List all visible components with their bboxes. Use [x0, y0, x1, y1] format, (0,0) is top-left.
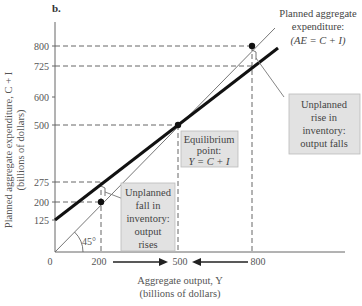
svg-text:Y = C + I: Y = C + I [188, 156, 230, 167]
svg-text:Equilibrium: Equilibrium [184, 134, 235, 145]
svg-text:inventory:: inventory: [302, 125, 345, 136]
svg-text:Unplanned: Unplanned [125, 187, 172, 198]
svg-text:Aggregate output, Y: Aggregate output, Y [137, 275, 223, 286]
svg-text:Unplanned: Unplanned [301, 99, 348, 110]
svg-text:(billions of dollars): (billions of dollars) [139, 288, 221, 300]
svg-text:fall in: fall in [136, 200, 162, 211]
svg-text:(AE = C + I): (AE = C + I) [291, 35, 346, 47]
svg-text:point:: point: [197, 145, 222, 156]
point-800 [249, 43, 255, 49]
svg-text:rise in: rise in [311, 112, 338, 123]
svg-text:500: 500 [173, 256, 188, 267]
y-ticks: 800 725 600 500 275 200 125 [34, 41, 55, 226]
svg-text:(billions of dollars): (billions of dollars) [15, 109, 27, 191]
svg-text:inventory:: inventory: [126, 213, 169, 224]
svg-text:Planned aggregate: Planned aggregate [279, 8, 357, 19]
equilibrium-point [175, 122, 181, 128]
unplanned-fall-box: Unplanned fall in inventory: output rise… [121, 183, 175, 251]
svg-text:275: 275 [34, 177, 49, 188]
svg-text:rises: rises [138, 239, 157, 250]
svg-text:output: output [135, 226, 162, 237]
svg-text:200: 200 [34, 197, 49, 208]
svg-text:Planned aggregate expenditure,: Planned aggregate expenditure, C + I [3, 71, 14, 228]
svg-text:500: 500 [34, 120, 49, 131]
svg-text:600: 600 [34, 92, 49, 103]
y-axis-title: Planned aggregate expenditure, C + I (bi… [3, 71, 27, 228]
chart-container: b. Planned aggregate expenditure, C + I … [0, 0, 362, 306]
unplanned-rise-box: Unplanned rise in inventory: output fall… [289, 94, 360, 154]
svg-text:expenditure:: expenditure: [292, 21, 345, 32]
svg-text:200: 200 [92, 256, 107, 267]
svg-text:725: 725 [34, 61, 49, 72]
svg-text:125: 125 [34, 215, 49, 226]
svg-text:0: 0 [48, 256, 53, 267]
point-200 [98, 199, 104, 205]
svg-text:800: 800 [251, 256, 266, 267]
svg-text:800: 800 [34, 41, 49, 52]
ae-curve-label: Planned aggregate expenditure: (AE = C +… [279, 8, 357, 47]
svg-text:output falls: output falls [300, 138, 348, 149]
angle-label: 45° [82, 236, 96, 247]
panel-label: b. [52, 2, 61, 14]
equilibrium-box: Equilibrium point: Y = C + I [181, 131, 238, 167]
x-axis-title: Aggregate output, Y (billions of dollars… [137, 275, 223, 300]
